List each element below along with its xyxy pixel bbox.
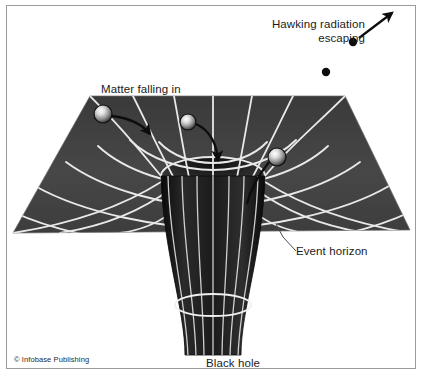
black-hole-diagram-figure: Hawking radiation escaping Matter fallin…: [0, 0, 423, 387]
matter-sphere-2: [180, 114, 196, 130]
label-event-horizon: Event horizon: [296, 245, 368, 259]
black-hole-funnel: [161, 176, 265, 360]
label-hawking-radiation: Hawking radiation escaping: [272, 18, 365, 45]
matter-sphere-3: [268, 148, 286, 166]
label-black-hole: Black hole: [206, 357, 260, 371]
radiation-dot-2: [322, 68, 330, 76]
matter-sphere-1: [94, 105, 112, 123]
diagram-canvas: [0, 0, 423, 387]
copyright-credit: © Infobase Publishing: [14, 355, 89, 364]
label-matter-falling-in: Matter falling in: [101, 83, 181, 97]
